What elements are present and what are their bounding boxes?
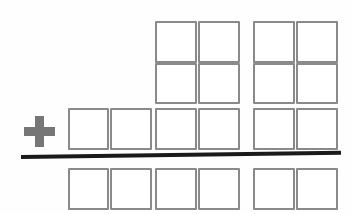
digit-box[interactable] (198, 63, 240, 104)
plus-vertical-bar (35, 116, 44, 147)
page-title: Addition box worksheet (0, 21, 1, 22)
digit-box[interactable] (253, 21, 295, 63)
addition-worksheet: Addition box worksheet (0, 0, 351, 214)
digit-box[interactable] (155, 108, 197, 150)
digit-box[interactable] (296, 63, 338, 104)
digit-box[interactable] (155, 21, 197, 63)
digit-box[interactable] (68, 108, 109, 150)
digit-box[interactable] (68, 168, 109, 210)
digit-box[interactable] (110, 168, 152, 210)
digit-box[interactable] (155, 63, 197, 104)
digit-box[interactable] (155, 168, 197, 210)
digit-box[interactable] (253, 168, 295, 210)
plus-sign-icon (24, 116, 55, 147)
digit-box[interactable] (253, 108, 295, 150)
digit-box[interactable] (198, 168, 240, 210)
digit-box[interactable] (198, 21, 240, 63)
digit-box[interactable] (253, 63, 295, 104)
sum-rule-line (21, 151, 341, 159)
digit-box[interactable] (110, 108, 152, 150)
digit-box[interactable] (198, 108, 240, 150)
digit-box[interactable] (296, 168, 338, 210)
digit-box[interactable] (296, 21, 338, 63)
digit-box[interactable] (296, 108, 338, 150)
